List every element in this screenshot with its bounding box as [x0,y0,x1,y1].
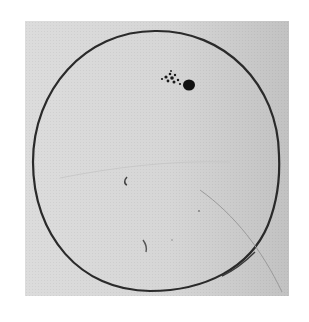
small-mark [198,210,200,212]
sun-drawing [0,0,309,322]
main-sunspot [183,80,195,91]
sunspot [161,78,163,80]
faint-line [200,190,282,292]
sunspot [173,81,176,84]
sunspot [179,83,181,85]
sunspot [164,75,167,78]
faint-line [60,162,230,178]
small-mark [171,239,173,241]
sunspot [177,79,179,81]
sunspot [167,80,170,83]
solar-disk-outline [33,31,279,291]
sunspot [170,76,174,80]
sunspot [169,73,172,76]
small-mark [125,177,127,185]
small-mark [143,240,146,252]
sunspot [170,70,172,72]
sunspot-cluster [161,70,181,85]
sunspot [174,74,176,76]
